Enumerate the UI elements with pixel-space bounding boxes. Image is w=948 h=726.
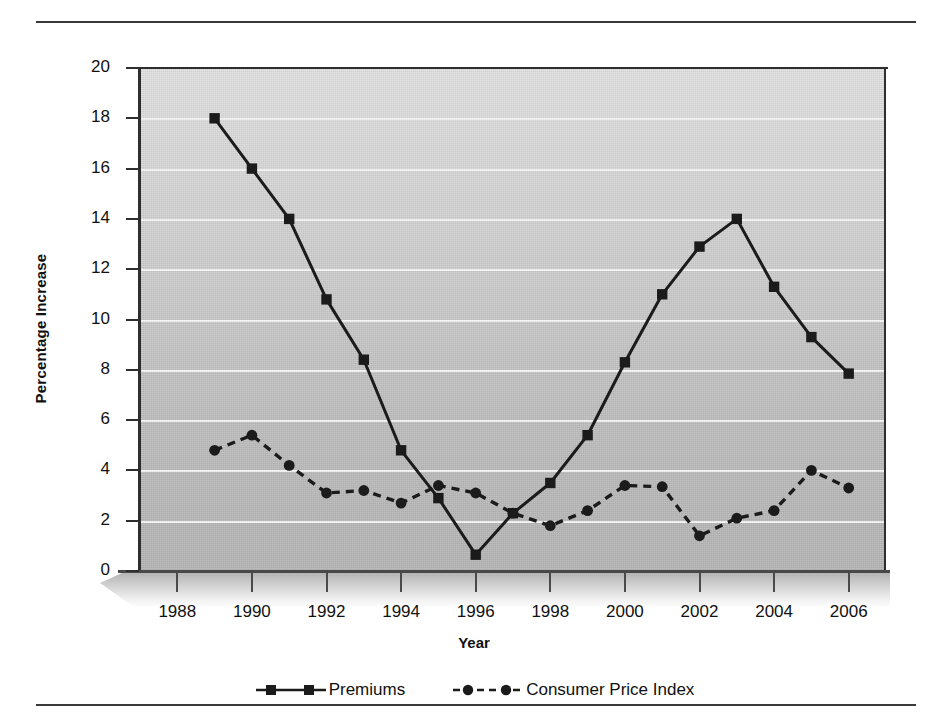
x-tick-mark: [848, 573, 850, 592]
y-tick-label: 2: [70, 510, 110, 530]
x-tick-label: 2004: [739, 602, 809, 622]
gridline: [140, 169, 884, 171]
x-tick-mark: [699, 573, 701, 592]
x-tick-mark: [251, 573, 253, 592]
y-tick-label: 8: [70, 359, 110, 379]
plot-area: [140, 68, 886, 571]
plot-top-border: [140, 67, 888, 69]
y-tick-mark: [126, 369, 139, 371]
y-tick-label: 18: [70, 107, 110, 127]
y-tick-mark: [126, 168, 139, 170]
x-tick-mark: [475, 573, 477, 592]
legend-item-premiums[interactable]: Premiums: [254, 680, 406, 700]
y-tick-mark: [126, 268, 139, 270]
bottom-divider-rule: [36, 704, 916, 706]
y-tick-label: 4: [70, 459, 110, 479]
x-tick-label: 2000: [590, 602, 660, 622]
gridline: [140, 370, 884, 372]
y-tick-label: 10: [70, 309, 110, 329]
x-tick-label: 1988: [142, 602, 212, 622]
y-tick-mark: [126, 67, 139, 69]
gridline: [140, 219, 884, 221]
x-tick-label: 1998: [515, 602, 585, 622]
x-tick-mark: [773, 573, 775, 592]
y-tick-label: 6: [70, 409, 110, 429]
y-tick-label: 12: [70, 258, 110, 278]
gridline: [140, 420, 884, 422]
gridline: [140, 470, 884, 472]
y-tick-label: 16: [70, 158, 110, 178]
y-tick-label: 14: [70, 208, 110, 228]
x-tick-label: 2002: [665, 602, 735, 622]
legend-label-cpi: Consumer Price Index: [526, 680, 694, 700]
x-axis-title: Year: [0, 634, 948, 651]
x-tick-mark: [326, 573, 328, 592]
legend-item-cpi[interactable]: Consumer Price Index: [451, 680, 694, 700]
y-tick-mark: [126, 570, 139, 572]
x-tick-mark: [624, 573, 626, 592]
gridline: [140, 269, 884, 271]
gridline: [140, 521, 884, 523]
y-tick-mark: [126, 520, 139, 522]
y-tick-mark: [126, 117, 139, 119]
dashed-circle-line-key: [451, 681, 525, 699]
y-tick-label: 20: [70, 57, 110, 77]
x-tick-label: 1990: [217, 602, 287, 622]
x-tick-mark: [549, 573, 551, 592]
top-divider-rule: [36, 21, 916, 23]
chart-legend: Premiums Consumer Price Index: [0, 680, 948, 700]
x-tick-label: 1996: [441, 602, 511, 622]
y-tick-mark: [126, 319, 139, 321]
x-tick-label: 2006: [814, 602, 884, 622]
y-tick-mark: [126, 419, 139, 421]
line-chart-figure: Percentage Increase 02468101214161820198…: [0, 30, 948, 690]
x-tick-label: 1992: [292, 602, 362, 622]
gridline: [140, 118, 884, 120]
x-tick-mark: [176, 573, 178, 592]
y-tick-mark: [126, 469, 139, 471]
solid-square-line-key: [254, 681, 328, 699]
legend-label-premiums: Premiums: [329, 680, 406, 700]
chart-page: Percentage Increase 02468101214161820198…: [0, 0, 948, 726]
y-tick-label: 0: [70, 560, 110, 580]
x-tick-label: 1994: [366, 602, 436, 622]
x-tick-mark: [400, 573, 402, 592]
gridline: [140, 320, 884, 322]
y-axis-title: Percentage Increase: [32, 209, 49, 449]
y-tick-mark: [126, 218, 139, 220]
